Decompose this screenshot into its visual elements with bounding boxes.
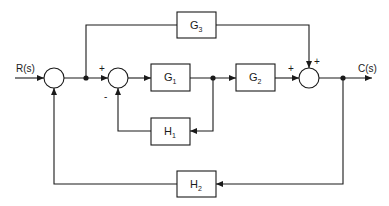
summing-junction-2 [108,68,128,88]
block-diagram: R(s) + G3 + - G1 G2 H1 + C(s) H2 [0,0,389,206]
summing-junction-1 [44,68,64,88]
feedforward-line-out [216,25,309,68]
output-signal-label: C(s) [358,63,377,74]
arrow-icon [144,75,151,81]
h1-feedback-out [118,88,151,131]
arrow-icon [365,75,372,81]
s3-plus-sign-top: + [314,56,320,67]
arrow-icon [51,88,57,95]
h1-feedback-in [190,78,213,131]
s2-minus-sign: - [104,91,107,102]
s3-plus-sign-left: + [288,63,294,74]
arrow-icon [229,75,236,81]
summing-junction-3 [299,68,319,88]
arrow-icon [292,75,299,81]
input-signal-label: R(s) [16,63,35,74]
arrow-icon [101,75,108,81]
arrow-icon [306,61,312,68]
s2-plus-sign: + [99,63,105,74]
arrow-icon [216,181,223,187]
arrow-icon [115,88,121,95]
arrow-icon [37,75,44,81]
arrow-icon [190,128,197,134]
h2-feedback-in [216,78,343,184]
